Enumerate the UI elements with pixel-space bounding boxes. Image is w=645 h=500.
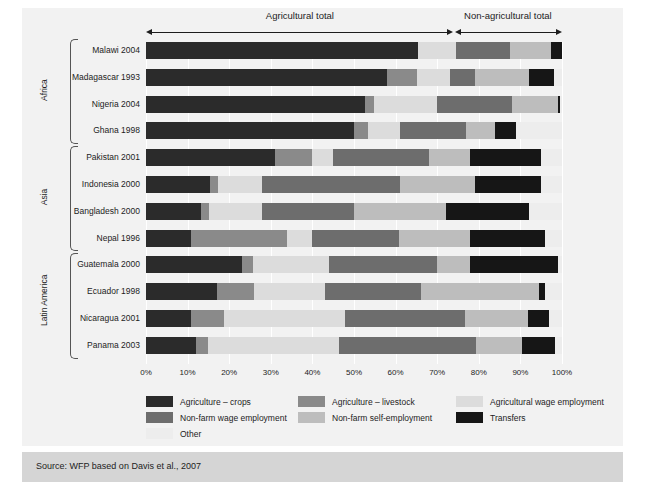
- bar-segment[interactable]: [254, 283, 325, 300]
- bar-segment[interactable]: [400, 176, 475, 193]
- legend-item[interactable]: Agriculture – crops: [146, 396, 251, 407]
- bar-segment[interactable]: [146, 283, 217, 300]
- bar-segment[interactable]: [209, 203, 262, 220]
- bar-segment[interactable]: [312, 230, 399, 247]
- bar-segment[interactable]: [374, 96, 437, 113]
- bar-segment[interactable]: [354, 203, 446, 220]
- bar-segment[interactable]: [470, 149, 541, 166]
- bar-segment[interactable]: [549, 310, 562, 327]
- bar-segment[interactable]: [146, 176, 210, 193]
- bar-segment[interactable]: [495, 122, 516, 139]
- bar-segment[interactable]: [146, 149, 275, 166]
- bar-segment[interactable]: [146, 122, 354, 139]
- bar-segment[interactable]: [450, 69, 475, 86]
- bar-row[interactable]: [146, 283, 562, 300]
- bar-row[interactable]: [146, 69, 562, 86]
- bar-segment[interactable]: [146, 256, 242, 273]
- bar-segment[interactable]: [541, 149, 562, 166]
- bar-row[interactable]: [146, 176, 562, 193]
- bar-row[interactable]: [146, 203, 562, 220]
- bar-segment[interactable]: [560, 96, 562, 113]
- bar-segment[interactable]: [437, 256, 470, 273]
- bar-segment[interactable]: [555, 337, 562, 354]
- bar-row[interactable]: [146, 310, 562, 327]
- bar-segment[interactable]: [545, 283, 562, 300]
- bar-segment[interactable]: [399, 230, 470, 247]
- bar-segment[interactable]: [475, 69, 529, 86]
- legend-item[interactable]: Agricultural wage employment: [456, 396, 604, 407]
- bar-segment[interactable]: [470, 256, 557, 273]
- bar-row[interactable]: [146, 149, 562, 166]
- bar-segment[interactable]: [466, 122, 495, 139]
- bar-segment[interactable]: [333, 149, 429, 166]
- x-tick-label: 60%: [381, 368, 411, 377]
- bar-segment[interactable]: [345, 310, 466, 327]
- bar-segment[interactable]: [196, 337, 208, 354]
- bar-segment[interactable]: [224, 310, 345, 327]
- bar-segment[interactable]: [208, 337, 339, 354]
- bar-segment[interactable]: [253, 256, 329, 273]
- bar-row[interactable]: [146, 337, 562, 354]
- bar-segment[interactable]: [476, 337, 522, 354]
- bar-segment[interactable]: [339, 337, 476, 354]
- bar-segment[interactable]: [516, 122, 562, 139]
- bar-segment[interactable]: [287, 230, 312, 247]
- legend-item[interactable]: Transfers: [456, 412, 526, 423]
- bar-segment[interactable]: [429, 149, 471, 166]
- bar-segment[interactable]: [217, 283, 254, 300]
- bar-segment[interactable]: [554, 69, 562, 86]
- bar-segment[interactable]: [522, 337, 555, 354]
- bar-segment[interactable]: [191, 310, 224, 327]
- bar-segment[interactable]: [437, 96, 512, 113]
- bar-segment[interactable]: [325, 283, 421, 300]
- bar-segment[interactable]: [262, 203, 354, 220]
- bar-segment[interactable]: [418, 42, 456, 59]
- bar-segment[interactable]: [329, 256, 437, 273]
- bar-segment[interactable]: [146, 310, 191, 327]
- bar-segment[interactable]: [312, 149, 333, 166]
- bar-segment[interactable]: [510, 42, 551, 59]
- bar-segment[interactable]: [512, 96, 558, 113]
- bar-segment[interactable]: [365, 96, 374, 113]
- bar-segment[interactable]: [470, 230, 545, 247]
- bar-segment[interactable]: [354, 122, 368, 139]
- bar-segment[interactable]: [146, 96, 365, 113]
- bar-segment[interactable]: [446, 203, 529, 220]
- bar-segment[interactable]: [368, 122, 400, 139]
- bar-segment[interactable]: [210, 176, 218, 193]
- bar-segment[interactable]: [529, 203, 562, 220]
- bar-segment[interactable]: [146, 203, 201, 220]
- legend-item[interactable]: Non-farm self-employment: [298, 412, 432, 423]
- bar-segment[interactable]: [417, 69, 449, 86]
- bar-row[interactable]: [146, 230, 562, 247]
- bar-segment[interactable]: [275, 149, 312, 166]
- bar-row[interactable]: [146, 96, 562, 113]
- bar-segment[interactable]: [191, 230, 287, 247]
- bar-row[interactable]: [146, 256, 562, 273]
- bar-row[interactable]: [146, 42, 562, 59]
- bar-segment[interactable]: [421, 283, 540, 300]
- bar-segment[interactable]: [475, 176, 542, 193]
- bar-segment[interactable]: [146, 69, 387, 86]
- bar-segment[interactable]: [545, 230, 562, 247]
- bar-segment[interactable]: [465, 310, 527, 327]
- bar-segment[interactable]: [558, 256, 562, 273]
- bar-segment[interactable]: [146, 337, 196, 354]
- bar-segment[interactable]: [218, 176, 262, 193]
- bar-segment[interactable]: [400, 122, 467, 139]
- bar-segment[interactable]: [201, 203, 209, 220]
- bar-row[interactable]: [146, 122, 562, 139]
- bar-segment[interactable]: [242, 256, 254, 273]
- bar-segment[interactable]: [456, 42, 510, 59]
- bar-segment[interactable]: [529, 69, 554, 86]
- legend-item[interactable]: Agriculture – livestock: [298, 396, 415, 407]
- bar-segment[interactable]: [262, 176, 399, 193]
- bar-segment[interactable]: [146, 42, 418, 59]
- bar-segment[interactable]: [146, 230, 191, 247]
- bar-segment[interactable]: [387, 69, 417, 86]
- bar-segment[interactable]: [541, 176, 562, 193]
- legend-item[interactable]: Non-farm wage employment: [146, 412, 287, 423]
- bar-segment[interactable]: [528, 310, 549, 327]
- legend-item[interactable]: Other: [146, 428, 201, 439]
- bar-segment[interactable]: [551, 42, 562, 59]
